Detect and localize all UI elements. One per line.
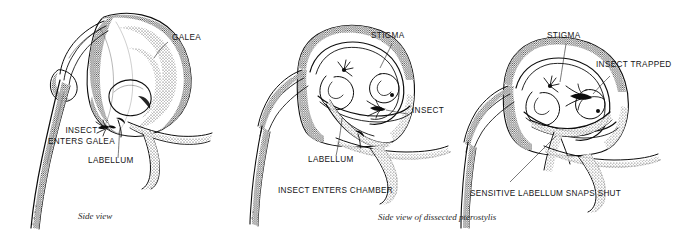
- panel-1-illustration: [0, 0, 240, 238]
- label-insect-enters-galea-line2: ENTERS GALEA: [48, 137, 115, 146]
- panel-2-illustration: [240, 0, 460, 238]
- dissected-galea-outline: [503, 37, 628, 156]
- lower-lateral-sepals: [128, 122, 212, 190]
- caption-insect-enters-chamber: INSECT ENTERS CHAMBER: [278, 186, 393, 195]
- caption-side-view: Side view: [78, 211, 112, 221]
- panel-side-view: GALEA INSECT ENTERS GALEA LABELLUM Side …: [0, 0, 240, 238]
- label-labellum: LABELLUM: [88, 156, 134, 167]
- label-insect: INSECT: [412, 106, 444, 117]
- caption-side-view-dissected: Side view of dissected pterostylis: [378, 212, 496, 222]
- lower-lateral-sepals: [544, 146, 660, 213]
- label-insect-enters-galea: INSECT ENTERS GALEA: [48, 125, 115, 147]
- label-insect-enters-galea-line1: INSECT: [65, 126, 97, 135]
- panel-insect-enters-chamber: STIGMA INSECT LABELLUM INSECT ENTERS CHA…: [240, 0, 460, 238]
- label-stigma: STIGMA: [547, 31, 581, 42]
- stigma-tip: [544, 76, 559, 92]
- inner-galea-wall: [310, 42, 404, 124]
- label-stigma: STIGMA: [371, 31, 405, 42]
- caption-sensitive-labellum-snaps-shut: SENSITIVE LABELLUM SNAPS SHUT: [470, 189, 621, 198]
- figure-canvas: GALEA INSECT ENTERS GALEA LABELLUM Side …: [0, 0, 679, 238]
- sepal-tail: [31, 80, 70, 229]
- panel-labellum-snaps-shut: STIGMA INSECT TRAPPED SENSITIVE LABELLUM…: [460, 0, 679, 238]
- label-galea: GALEA: [172, 33, 201, 44]
- lateral-sepal-bundle: [461, 86, 514, 228]
- leader-labellum: [336, 118, 342, 156]
- label-insect-trapped: INSECT TRAPPED: [596, 60, 672, 71]
- stigma-tip-left: [338, 60, 353, 76]
- label-labellum: LABELLUM: [308, 155, 354, 166]
